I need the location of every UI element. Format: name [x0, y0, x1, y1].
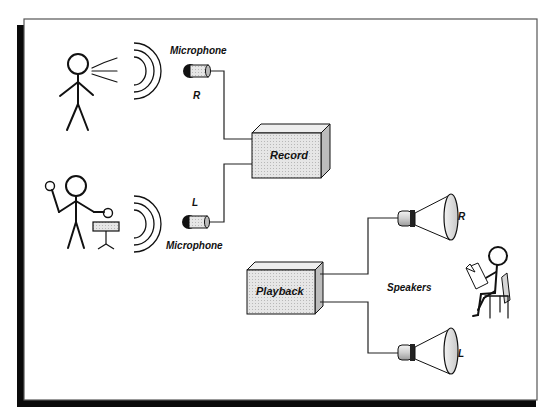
speakers-label: Speakers — [387, 282, 431, 293]
speaker-bottom-channel-label: L — [458, 348, 464, 359]
microphone-top-label: Microphone — [170, 45, 227, 56]
record-label: Record — [270, 149, 308, 161]
microphone-bottom-label: Microphone — [166, 240, 223, 251]
diagram-canvas: Microphone R L Microphone Record Playbac… — [0, 0, 550, 411]
microphone-bottom-channel-label: L — [192, 197, 198, 208]
microphone-l-icon — [182, 215, 210, 229]
playback-label: Playback — [256, 285, 304, 297]
microphone-r-icon — [183, 64, 211, 78]
speaker-top-channel-label: R — [458, 211, 465, 222]
microphone-top-channel-label: R — [193, 90, 200, 101]
